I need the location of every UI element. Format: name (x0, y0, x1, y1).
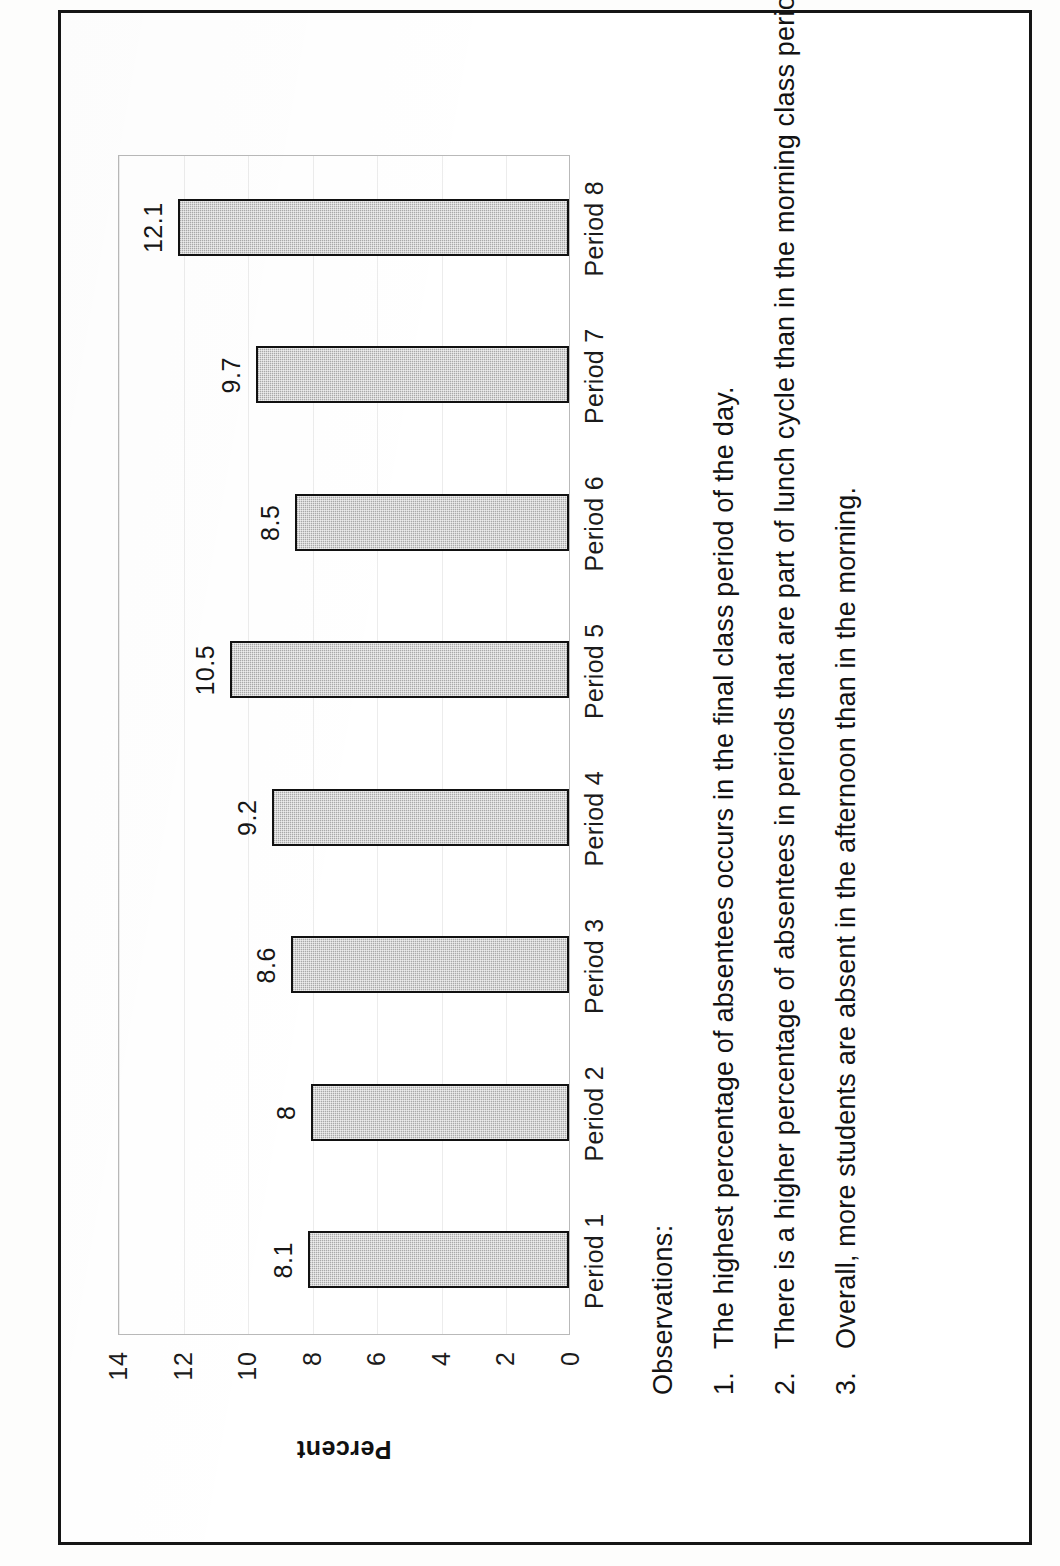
y-axis-tick-label: 6 (362, 1351, 391, 1366)
bar-slot: 8 (119, 1039, 569, 1187)
category-label: Period 3 (580, 918, 609, 1014)
bar-value-label: 10.5 (191, 644, 220, 695)
absentee-bar-chart: 14121086420 Percent 8.188.69.210.58.59.7… (118, 155, 633, 1395)
bar-value-label: 12.1 (139, 202, 168, 253)
bar-slot: 9.2 (119, 744, 569, 892)
plot-area: 8.188.69.210.58.59.712.1 (118, 155, 570, 1335)
bar-value-label: 9.7 (217, 357, 246, 393)
scanned-page: 14121086420 Percent 8.188.69.210.58.59.7… (58, 10, 1032, 1545)
y-axis-tick-label: 14 (104, 1351, 133, 1381)
category-label: Period 4 (580, 770, 609, 866)
value-axis: 14121086420 (118, 1343, 570, 1395)
bar (295, 493, 569, 550)
observation-text: Overall, more students are absent in the… (831, 145, 862, 1349)
category-label: Period 8 (580, 180, 609, 276)
category-label: Period 2 (580, 1065, 609, 1161)
bar-value-label: 8.1 (269, 1242, 298, 1278)
observations-heading: Observations: (648, 145, 679, 1395)
rotated-sheet-content: 14121086420 Percent 8.188.69.210.58.59.7… (100, 83, 990, 1473)
observation-number: 3. (831, 1349, 862, 1395)
category-axis: Period 1Period 2Period 3Period 4Period 5… (574, 155, 620, 1335)
bar-value-label: 8.5 (256, 504, 285, 540)
bar-value-label: 8.6 (252, 947, 281, 983)
bar-value-label: 9.2 (233, 799, 262, 835)
bar (311, 1083, 569, 1140)
y-axis-tick-label: 4 (426, 1351, 455, 1366)
bar-slot: 10.5 (119, 596, 569, 744)
bar-value-label: 8 (272, 1105, 301, 1119)
y-axis-title: Percent (296, 1434, 391, 1463)
bar (291, 936, 569, 993)
observations-section: Observations: 1.The highest percentage o… (648, 145, 892, 1395)
bar-slot: 12.1 (119, 154, 569, 302)
y-axis-tick-label: 10 (233, 1351, 262, 1381)
bar (256, 346, 569, 403)
category-label: Period 7 (580, 328, 609, 424)
bar-slot: 8.6 (119, 891, 569, 1039)
category-label: Period 5 (580, 623, 609, 719)
y-axis-tick-label: 8 (297, 1351, 326, 1366)
observation-item: 2.There is a higher percentage of absent… (770, 145, 801, 1395)
observation-text: The highest percentage of absentees occu… (709, 145, 740, 1349)
observations-list: 1.The highest percentage of absentees oc… (709, 145, 862, 1395)
observation-number: 1. (709, 1349, 740, 1395)
observation-item: 1.The highest percentage of absentees oc… (709, 145, 740, 1395)
bar (272, 788, 569, 845)
observation-text: There is a higher percentage of absentee… (770, 0, 801, 1349)
bar-slot: 9.7 (119, 301, 569, 449)
bar-slot: 8.1 (119, 1186, 569, 1334)
category-label: Period 6 (580, 475, 609, 571)
category-label: Period 1 (580, 1213, 609, 1309)
bar-series: 8.188.69.210.58.59.712.1 (119, 156, 569, 1334)
y-axis-tick-label: 12 (168, 1351, 197, 1381)
observation-number: 2. (770, 1349, 801, 1395)
y-axis-tick-label: 2 (491, 1351, 520, 1366)
bar (230, 641, 569, 698)
bar (308, 1231, 570, 1288)
bar-slot: 8.5 (119, 449, 569, 597)
y-axis-tick-label: 0 (556, 1351, 585, 1366)
bar (178, 198, 569, 255)
observation-item: 3.Overall, more students are absent in t… (831, 145, 862, 1395)
